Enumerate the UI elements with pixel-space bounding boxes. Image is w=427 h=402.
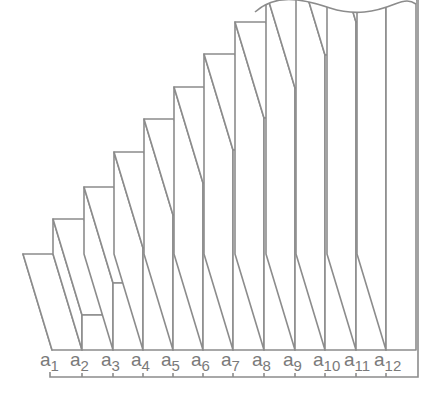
label-subscript: 9 — [294, 357, 302, 374]
label-subscript: 7 — [232, 357, 240, 374]
label-letter: a — [252, 349, 263, 370]
bar-label-a12: a12 — [374, 349, 401, 374]
label-letter: a — [344, 349, 355, 370]
label-letter: a — [40, 349, 51, 370]
bar-label-a4: a4 — [131, 349, 150, 374]
label-subscript: 11 — [355, 357, 371, 374]
label-subscript: 5 — [172, 357, 180, 374]
bar-label-a7: a7 — [221, 349, 240, 374]
label-subscript: 10 — [324, 357, 341, 374]
bar-label-a2: a2 — [70, 349, 89, 374]
label-letter: a — [191, 349, 202, 370]
label-letter: a — [221, 349, 232, 370]
label-subscript: 12 — [385, 357, 402, 374]
bar-label-a6: a6 — [191, 349, 210, 374]
label-letter: a — [70, 349, 81, 370]
bar-front-face — [386, 0, 416, 350]
label-subscript: 6 — [202, 357, 210, 374]
label-subscript: 3 — [112, 357, 120, 374]
bar-label-a9: a9 — [283, 349, 302, 374]
bar-label-a8: a8 — [252, 349, 271, 374]
label-subscript: 1 — [51, 357, 59, 374]
bar-label-a3: a3 — [101, 349, 120, 374]
label-letter: a — [283, 349, 294, 370]
label-subscript: 4 — [142, 357, 150, 374]
bars-group — [23, 0, 416, 350]
label-letter: a — [131, 349, 142, 370]
label-letter: a — [101, 349, 112, 370]
bar-labels: a1a2a3a4a5a6a7a8a9a10a11a12 — [40, 349, 401, 374]
label-letter: a — [374, 349, 385, 370]
bar-label-a5: a5 — [161, 349, 180, 374]
label-subscript: 2 — [81, 357, 89, 374]
bar-label-a11: a11 — [344, 349, 370, 374]
staircase-diagram: a1a2a3a4a5a6a7a8a9a10a11a12 — [0, 0, 427, 402]
bar-label-a1: a1 — [40, 349, 59, 374]
staircase-bars-canvas: a1a2a3a4a5a6a7a8a9a10a11a12 — [0, 0, 427, 402]
label-subscript: 8 — [263, 357, 271, 374]
label-letter: a — [313, 349, 324, 370]
bar-label-a10: a10 — [313, 349, 340, 374]
label-letter: a — [161, 349, 172, 370]
